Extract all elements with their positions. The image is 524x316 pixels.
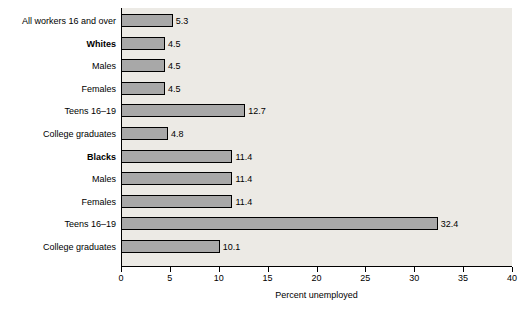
x-tick-label: 20 bbox=[311, 273, 321, 283]
bar bbox=[121, 37, 165, 50]
x-tick-label: 40 bbox=[507, 273, 517, 283]
category-label: Males bbox=[92, 174, 116, 184]
x-tick bbox=[414, 267, 415, 272]
category-label: Females bbox=[81, 197, 116, 207]
category-label: Whites bbox=[86, 39, 116, 49]
x-tick-label: 5 bbox=[167, 273, 172, 283]
bar-value-label: 4.5 bbox=[168, 61, 181, 71]
bar bbox=[121, 172, 232, 185]
bar-value-label: 10.1 bbox=[223, 242, 241, 252]
bar bbox=[121, 240, 220, 253]
bar bbox=[121, 59, 165, 72]
x-tick-label: 10 bbox=[214, 273, 224, 283]
x-tick bbox=[317, 267, 318, 272]
x-tick bbox=[170, 267, 171, 272]
category-label: College graduates bbox=[43, 242, 116, 252]
bar bbox=[121, 14, 173, 27]
bar-value-label: 11.4 bbox=[235, 174, 252, 184]
bar bbox=[121, 82, 165, 95]
bar bbox=[121, 104, 245, 117]
x-tick-label: 35 bbox=[458, 273, 468, 283]
bar bbox=[121, 217, 438, 230]
category-label: Females bbox=[81, 84, 116, 94]
category-label: Blacks bbox=[87, 152, 116, 162]
x-tick bbox=[512, 267, 513, 272]
category-label: All workers 16 and over bbox=[22, 16, 116, 26]
bar-value-label: 5.3 bbox=[176, 16, 189, 26]
x-axis-title: Percent unemployed bbox=[121, 290, 512, 300]
category-label: College graduates bbox=[43, 129, 116, 139]
category-label: Males bbox=[92, 61, 116, 71]
bar bbox=[121, 195, 232, 208]
bar bbox=[121, 127, 168, 140]
x-tick bbox=[268, 267, 269, 272]
x-tick bbox=[121, 267, 122, 272]
x-tick-label: 30 bbox=[409, 273, 419, 283]
x-tick-label: 0 bbox=[118, 273, 123, 283]
x-tick-label: 15 bbox=[263, 273, 273, 283]
x-tick-label: 25 bbox=[360, 273, 370, 283]
x-tick bbox=[463, 267, 464, 272]
bar-value-label: 32.4 bbox=[441, 219, 459, 229]
bar-value-label: 4.5 bbox=[168, 84, 181, 94]
bar-value-label: 11.4 bbox=[235, 197, 252, 207]
category-label: Teens 16–19 bbox=[64, 219, 116, 229]
bar bbox=[121, 150, 232, 163]
bar-value-label: 4.8 bbox=[171, 129, 184, 139]
category-label: Teens 16–19 bbox=[64, 106, 116, 116]
bar-value-label: 12.7 bbox=[248, 106, 266, 116]
x-tick bbox=[365, 267, 366, 272]
bar-value-label: 4.5 bbox=[168, 39, 181, 49]
x-tick bbox=[219, 267, 220, 272]
chart-container: 0510152025303540 5.34.54.54.512.74.811.4… bbox=[0, 0, 524, 316]
bar-value-label: 11.4 bbox=[235, 152, 252, 162]
